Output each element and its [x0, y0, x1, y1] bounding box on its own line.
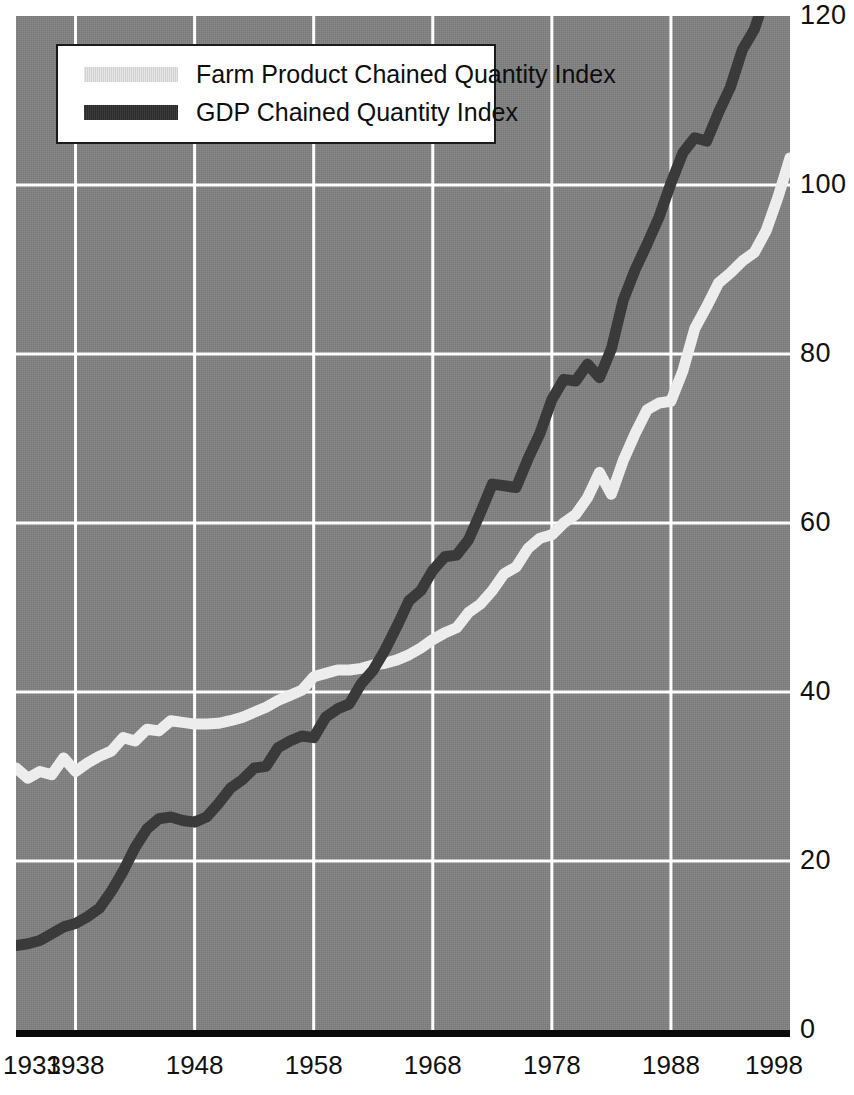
plot-area	[16, 16, 790, 1030]
chart-legend: Farm Product Chained Quantity Index GDP …	[56, 44, 496, 144]
legend-label-farm: Farm Product Chained Quantity Index	[196, 62, 616, 87]
y-tick-label: 120	[800, 2, 847, 29]
x-tick-label: 1938	[47, 1052, 105, 1078]
series-line-gdp	[16, 16, 790, 946]
legend-item-gdp: GDP Chained Quantity Index	[72, 93, 480, 131]
series-line-farm	[16, 158, 790, 778]
y-tick-label: 60	[800, 509, 831, 536]
x-tick-label: 1968	[404, 1052, 462, 1078]
y-tick-label: 80	[800, 340, 831, 367]
series-lines	[16, 16, 790, 1030]
x-axis-rule	[16, 1030, 790, 1037]
x-tick-label: 1988	[642, 1052, 700, 1078]
y-tick-label: 40	[800, 678, 831, 705]
y-tick-label: 0	[800, 1016, 816, 1043]
x-tick-label: 1958	[285, 1052, 343, 1078]
legend-swatch-farm-icon	[84, 67, 178, 82]
y-tick-label: 20	[800, 847, 831, 874]
legend-item-farm: Farm Product Chained Quantity Index	[72, 55, 480, 93]
x-tick-label: 1978	[523, 1052, 581, 1078]
x-tick-label: 1998	[745, 1052, 803, 1078]
chart-container: 020406080100120 193319381948195819681978…	[0, 0, 854, 1095]
x-tick-label: 1948	[166, 1052, 224, 1078]
legend-swatch-gdp-icon	[84, 105, 178, 120]
y-tick-label: 100	[800, 171, 847, 198]
legend-label-gdp: GDP Chained Quantity Index	[196, 100, 518, 125]
